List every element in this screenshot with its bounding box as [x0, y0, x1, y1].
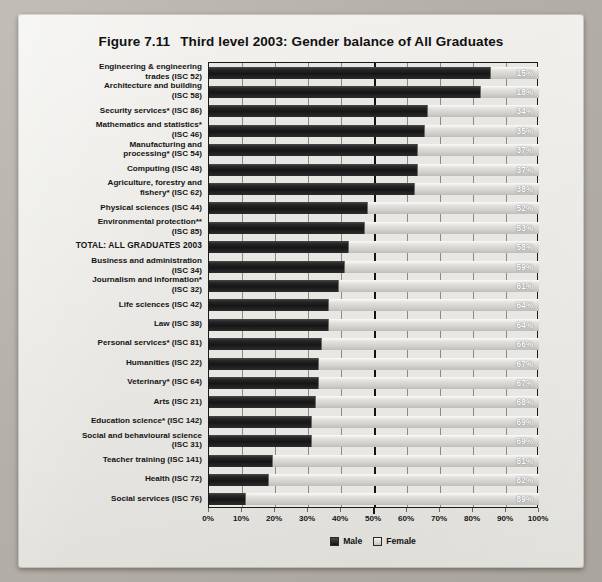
bar-segment-male	[209, 241, 348, 253]
bar-segment-male	[209, 396, 315, 408]
category-label: Business and administration(ISC 34)	[30, 256, 202, 275]
legend-item-female: Female	[373, 536, 416, 546]
bar-segment-male	[209, 202, 367, 214]
bar-segment-female	[311, 435, 539, 447]
bar-value-label: 37%	[517, 165, 533, 174]
category-label-line: Social and behavioural science	[30, 431, 202, 441]
bar-value-label: 35%	[517, 126, 533, 135]
category-label-line: Social services (ISC 76)	[30, 494, 202, 504]
bar-segment-female	[318, 358, 539, 370]
bar-segment-female	[328, 319, 539, 331]
x-tick-label: 40%	[332, 514, 348, 523]
bar-segment-male	[209, 435, 311, 447]
bar-row: 37%	[209, 164, 537, 176]
category-label: Education science* (ISC 142)	[30, 416, 202, 426]
category-label-line: (ISC 58)	[30, 91, 202, 101]
bar-row: 69%	[209, 416, 537, 428]
bar-value-label: 59%	[517, 262, 533, 271]
plot-area: 15%18%34%35%37%37%38%52%53%58%59%61%64%6…	[208, 62, 538, 508]
bar-value-label: 38%	[517, 185, 533, 194]
category-label: Humanities (ISC 22)	[30, 358, 202, 368]
bar-segment-female	[318, 377, 539, 389]
category-label: Social and behavioural science(ISC 31)	[30, 431, 202, 450]
category-label-line: Health (ISC 72)	[30, 474, 202, 484]
category-label: Life sciences (ISC 42)	[30, 300, 202, 310]
bar-row: 35%	[209, 125, 537, 137]
bar-segment-male	[209, 474, 268, 486]
bar-row: 38%	[209, 183, 537, 195]
bar-value-label: 81%	[517, 456, 533, 465]
figure-number: Figure 7.11	[99, 34, 171, 49]
x-tick-70	[439, 508, 440, 512]
bar-value-label: 67%	[517, 359, 533, 368]
bar-row: 81%	[209, 455, 537, 467]
bar-value-label: 18%	[517, 88, 533, 97]
category-label: Manufacturing andprocessing* (ISC 54)	[30, 140, 202, 159]
bar-row: 53%	[209, 222, 537, 234]
x-tick-90	[505, 508, 506, 512]
x-tick-label: 60%	[398, 514, 414, 523]
category-label: Health (ISC 72)	[30, 474, 202, 484]
category-label-line: processing* (ISC 54)	[30, 149, 202, 159]
x-tick-label: 70%	[431, 514, 447, 523]
category-label-line: Mathematics and statistics*	[30, 120, 202, 130]
bar-segment-male	[209, 319, 328, 331]
bar-segment-male	[209, 144, 417, 156]
bar-row: 89%	[209, 493, 537, 505]
category-label-line: Law (ISC 38)	[30, 319, 202, 329]
x-tick-label: 90%	[497, 514, 513, 523]
category-label-line: (ISC 34)	[30, 266, 202, 276]
bar-segment-female	[245, 493, 539, 505]
legend-swatch-female-icon	[373, 537, 382, 546]
bar-segment-female	[348, 241, 539, 253]
bar-segment-female	[268, 474, 539, 486]
x-tick-label: 0%	[202, 514, 214, 523]
x-tick-60	[406, 508, 407, 512]
bar-segment-female	[328, 299, 539, 311]
category-label-line: Veterinary* (ISC 64)	[30, 377, 202, 387]
bar-segment-female	[367, 202, 539, 214]
category-label-line: Business and administration	[30, 256, 202, 266]
category-label-line: Manufacturing and	[30, 140, 202, 150]
category-label: Computing (ISC 48)	[30, 164, 202, 174]
bar-segment-female	[321, 338, 539, 350]
category-label: Environmental protection**(ISC 85)	[30, 217, 202, 236]
bar-segment-male	[209, 455, 272, 467]
category-label: Social services (ISC 76)	[30, 494, 202, 504]
chart-legend: Male Female	[208, 536, 538, 546]
bar-segment-male	[209, 222, 364, 234]
category-label-line: (ISC 46)	[30, 130, 202, 140]
x-tick-20	[274, 508, 275, 512]
bar-segment-female	[315, 396, 539, 408]
bar-segment-male	[209, 493, 245, 505]
category-label: Agriculture, forestry andfishery* (ISC 6…	[30, 178, 202, 197]
category-label: Architecture and building(ISC 58)	[30, 81, 202, 100]
category-label-line: Arts (ISC 21)	[30, 397, 202, 407]
category-label-line: Environmental protection**	[30, 217, 202, 227]
chart-area: Engineering & engineeringtrades (ISC 52)…	[32, 62, 572, 554]
category-label-line: (ISC 31)	[30, 440, 202, 450]
bar-segment-male	[209, 416, 311, 428]
category-label-line: Engineering & engineering	[30, 62, 202, 72]
x-tick-0	[208, 508, 209, 512]
bar-value-label: 67%	[517, 378, 533, 387]
bar-value-label: 34%	[517, 107, 533, 116]
bar-row: 68%	[209, 396, 537, 408]
bar-segment-female	[311, 416, 539, 428]
category-label: Engineering & engineeringtrades (ISC 52)	[30, 62, 202, 81]
category-label-line: Education science* (ISC 142)	[30, 416, 202, 426]
bar-value-label: 53%	[517, 223, 533, 232]
bar-row: 67%	[209, 377, 537, 389]
x-tick-100	[538, 508, 539, 512]
category-label-line: Agriculture, forestry and	[30, 178, 202, 188]
bar-value-label: 64%	[517, 320, 533, 329]
category-label: Security services* (ISC 86)	[30, 106, 202, 116]
bar-segment-female	[272, 455, 539, 467]
category-label-line: TOTAL: ALL GRADUATES 2003	[30, 241, 202, 251]
x-tick-label: 100%	[528, 514, 549, 523]
category-label: Mathematics and statistics*(ISC 46)	[30, 120, 202, 139]
figure-title: Figure 7.11Third level 2003: Gender bala…	[18, 34, 584, 49]
bar-row: 58%	[209, 241, 537, 253]
bar-row: 59%	[209, 261, 537, 273]
bar-value-label: 66%	[517, 340, 533, 349]
